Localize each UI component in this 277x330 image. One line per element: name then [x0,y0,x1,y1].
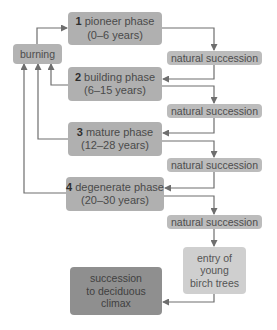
natural-succession-box-3: natural succession [167,158,262,172]
pioneer-phase-box: 1 pioneer phase (0–6 years) [68,12,162,45]
phase-name: mature phase [86,126,153,138]
degenerate-phase-box: 4 degenerate phase (20–30 years) [66,177,164,211]
phase-range: (0–6 years) [87,29,143,42]
phase-number: 3 [77,126,83,138]
birch-trees-box: entry of young birch trees [183,247,246,294]
phase-range: (6–15 years) [84,84,146,97]
phase-range: (20–30 years) [81,194,149,207]
phase-number: 2 [75,71,81,83]
natural-succession-box-1: natural succession [167,51,262,65]
phase-name: pioneer phase [85,15,155,27]
phase-name: degenerate phase [75,181,164,193]
phase-range: (12–28 years) [81,139,149,152]
natural-succession-box-2: natural succession [167,104,262,118]
deciduous-climax-box: succession to deciduous climax [70,267,162,315]
mature-phase-box: 3 mature phase (12–28 years) [68,122,162,156]
building-phase-box: 2 building phase (6–15 years) [68,67,162,101]
phase-name: building phase [84,71,155,83]
burning-label: burning [20,48,55,61]
phase-number: 4 [66,181,72,193]
natural-succession-box-4: natural succession [167,215,262,229]
burning-box: burning [13,44,62,64]
phase-number: 1 [76,15,82,27]
